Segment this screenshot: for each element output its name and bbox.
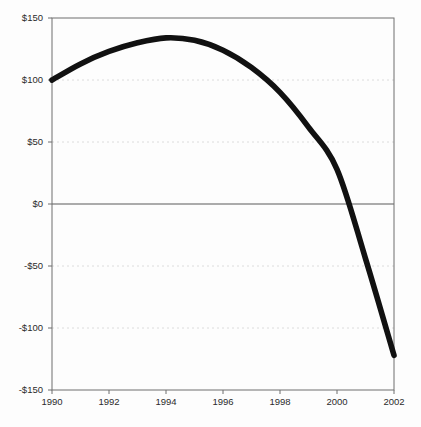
- y-tick-label: $100: [22, 74, 43, 85]
- chart-background: [0, 0, 421, 427]
- y-tick-label: -$150: [19, 384, 43, 395]
- x-tick-label: 1990: [41, 396, 62, 407]
- y-tick-label: $50: [27, 136, 43, 147]
- x-tick-label: 1994: [155, 396, 176, 407]
- line-chart: $150$100$50$0-$50-$100-$150 199019921994…: [0, 0, 421, 427]
- x-tick-label: 1996: [212, 396, 233, 407]
- y-tick-label: -$100: [19, 322, 43, 333]
- x-tick-label: 2002: [383, 396, 404, 407]
- y-tick-label: $150: [22, 12, 43, 23]
- chart-container: $150$100$50$0-$50-$100-$150 199019921994…: [0, 0, 421, 427]
- y-tick-label: $0: [32, 198, 43, 209]
- y-tick-label: -$50: [24, 260, 43, 271]
- x-tick-label: 2000: [326, 396, 347, 407]
- x-tick-label: 1998: [269, 396, 290, 407]
- x-tick-label: 1992: [98, 396, 119, 407]
